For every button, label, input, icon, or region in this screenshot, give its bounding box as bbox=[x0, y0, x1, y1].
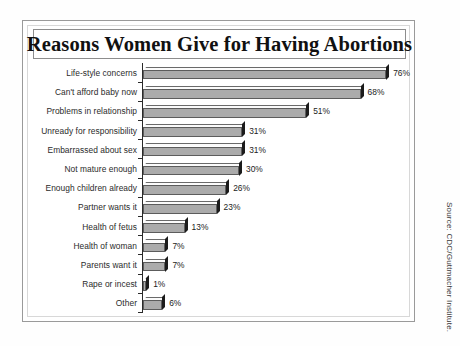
chart-row: Embarrassed about sex31% bbox=[33, 140, 406, 159]
bar bbox=[143, 278, 146, 291]
bar-front-face bbox=[143, 223, 185, 233]
category-label: Rape or incest bbox=[82, 279, 137, 289]
chart-row: Life-style concerns76% bbox=[33, 64, 406, 83]
chart-frame: Reasons Women Give for Having Abortions … bbox=[22, 20, 415, 322]
bar-side-face bbox=[146, 275, 149, 291]
chart-row: Partner wants it23% bbox=[33, 198, 406, 217]
bar-front-face bbox=[143, 243, 165, 253]
chart-row: Not mature enough30% bbox=[33, 160, 406, 179]
bar-value-label: 26% bbox=[233, 183, 250, 193]
bar bbox=[143, 220, 185, 233]
bar-front-face bbox=[143, 166, 239, 176]
bar-value-label: 31% bbox=[249, 126, 266, 136]
bar bbox=[143, 86, 361, 99]
category-label: Partner wants it bbox=[78, 202, 137, 212]
bar-side-face bbox=[239, 159, 242, 175]
category-label: Embarrassed about sex bbox=[48, 145, 138, 155]
chart-row: Can't afford baby now68% bbox=[33, 83, 406, 102]
bar-value-label: 13% bbox=[192, 222, 209, 232]
bar-value-label: 31% bbox=[249, 145, 266, 155]
chart-row: Rape or incest1% bbox=[33, 275, 406, 294]
chart-row: Enough children already26% bbox=[33, 179, 406, 198]
bar-value-label: 7% bbox=[172, 260, 184, 270]
bar-front-face bbox=[143, 262, 165, 272]
bar-front-face bbox=[143, 70, 386, 80]
bar-side-face bbox=[162, 294, 165, 310]
bar-front-face bbox=[143, 204, 217, 214]
category-label: Health of woman bbox=[73, 241, 137, 251]
bar-front-face bbox=[143, 185, 226, 195]
bar-value-label: 1% bbox=[153, 279, 165, 289]
bar-side-face bbox=[165, 236, 168, 252]
bar bbox=[143, 239, 165, 252]
bar-front-face bbox=[143, 147, 242, 157]
bar-side-face bbox=[242, 140, 245, 156]
chart-row: Health of woman7% bbox=[33, 236, 406, 255]
category-label: Problems in relationship bbox=[46, 106, 137, 116]
source-credit: Source: CDC/Guttmacher Institute. bbox=[445, 202, 454, 332]
category-label: Life-style concerns bbox=[66, 68, 137, 78]
chart-title-box: Reasons Women Give for Having Abortions bbox=[33, 29, 406, 59]
bar-value-label: 76% bbox=[393, 68, 410, 78]
bar-value-label: 68% bbox=[368, 87, 385, 97]
bar-side-face bbox=[306, 102, 309, 118]
chart-scan-area: Reasons Women Give for Having Abortions … bbox=[0, 0, 460, 346]
category-label: Parents want it bbox=[81, 260, 137, 270]
bar bbox=[143, 143, 242, 156]
bar-chart-plot-area: Life-style concerns76%Can't afford baby … bbox=[33, 63, 406, 315]
chart-row: Problems in relationship51% bbox=[33, 102, 406, 121]
category-label: Enough children already bbox=[46, 183, 137, 193]
bar-front-face bbox=[143, 300, 162, 310]
bar bbox=[143, 124, 242, 137]
bar-side-face bbox=[242, 121, 245, 137]
bar bbox=[143, 259, 165, 272]
chart-row: Other6% bbox=[33, 294, 406, 313]
category-label: Unready for responsibility bbox=[41, 126, 137, 136]
bar-value-label: 23% bbox=[224, 202, 241, 212]
bar bbox=[143, 297, 162, 310]
chart-row: Unready for responsibility31% bbox=[33, 121, 406, 140]
bar bbox=[143, 201, 217, 214]
bar-side-face bbox=[226, 179, 229, 195]
chart-row: Parents want it7% bbox=[33, 256, 406, 275]
axis-tick bbox=[138, 312, 142, 313]
bar-side-face bbox=[217, 198, 220, 214]
category-label: Other bbox=[116, 298, 137, 308]
bar-side-face bbox=[165, 255, 168, 271]
bar-value-label: 6% bbox=[169, 298, 181, 308]
bar-side-face bbox=[361, 83, 364, 99]
chart-row: Health of fetus13% bbox=[33, 217, 406, 236]
category-label: Can't afford baby now bbox=[55, 87, 137, 97]
bar-value-label: 30% bbox=[246, 164, 263, 174]
bar-front-face bbox=[143, 108, 306, 118]
bar bbox=[143, 182, 226, 195]
bar bbox=[143, 105, 306, 118]
bar bbox=[143, 163, 239, 176]
bar bbox=[143, 67, 386, 80]
bar-side-face bbox=[386, 63, 389, 79]
page-title: Reasons Women Give for Having Abortions bbox=[27, 33, 412, 56]
bar-value-label: 51% bbox=[313, 106, 330, 116]
category-label: Not mature enough bbox=[64, 164, 137, 174]
bar-side-face bbox=[185, 217, 188, 233]
bar-front-face bbox=[143, 89, 361, 99]
bar-front-face bbox=[143, 127, 242, 137]
bar-value-label: 7% bbox=[172, 241, 184, 251]
category-label: Health of fetus bbox=[82, 222, 137, 232]
